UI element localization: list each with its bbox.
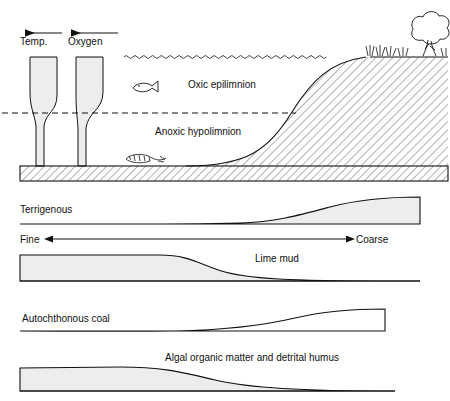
- facies-panel-autochthonous-coal: Autochthonous coal: [20, 309, 385, 331]
- temp-profile-label: Temp.: [20, 36, 47, 47]
- facies-panel-terrigenous: Terrigenous: [20, 197, 420, 224]
- grain-size-axis: Fine Coarse: [20, 234, 389, 245]
- autochthonous-coal-label: Autochthonous coal: [22, 313, 110, 324]
- oxygen-profile-curve: [76, 57, 103, 166]
- algal-organic-matter-wedge: [20, 367, 395, 391]
- dead-fish-icon: [126, 154, 166, 162]
- lime-mud-label: Lime mud: [255, 253, 299, 264]
- figure-canvas: Temp. Oxygen Oxic epilimnion Anoxic hypo…: [0, 0, 450, 401]
- grain-size-coarse-label: Coarse: [356, 234, 389, 245]
- oxygen-arrow-group: Oxygen: [68, 33, 118, 47]
- fish-icon: [133, 81, 158, 92]
- algal-organic-matter-label: Algal organic matter and detrital humus: [165, 352, 339, 363]
- temp-profile-curve: [30, 57, 57, 166]
- lime-mud-wedge: [20, 255, 420, 281]
- shore-slope: [186, 57, 448, 166]
- lake-floor: [20, 166, 448, 181]
- terrigenous-wedge: [20, 197, 420, 224]
- facies-panel-lime-mud: Lime mud: [20, 253, 420, 281]
- epilimnion-label: Oxic epilimnion: [188, 79, 256, 90]
- grain-size-fine-label: Fine: [20, 234, 40, 245]
- water-surface: [124, 56, 326, 59]
- stratified-lake-cross-section: Temp. Oxygen Oxic epilimnion Anoxic hypo…: [2, 12, 449, 181]
- terrigenous-label: Terrigenous: [20, 204, 72, 215]
- temp-arrow-group: Temp.: [20, 33, 62, 47]
- facies-panel-algal-organic-matter: Algal organic matter and detrital humus: [20, 352, 395, 391]
- hypolimnion-label: Anoxic hypolimnion: [155, 126, 241, 137]
- oxygen-profile-label: Oxygen: [68, 36, 102, 47]
- tree-icon: [412, 12, 449, 56]
